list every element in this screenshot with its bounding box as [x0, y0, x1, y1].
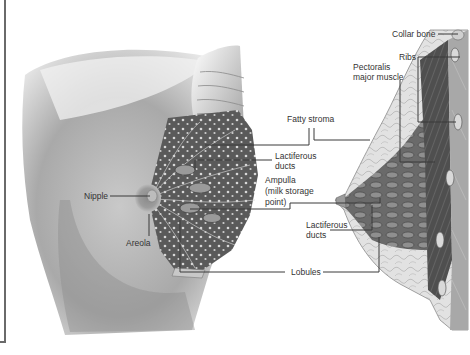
rib-4	[436, 232, 444, 248]
collar-bone	[452, 30, 464, 40]
label-lobules: Lobules	[291, 267, 321, 277]
rib-5	[438, 280, 446, 296]
label-ampulla-line3: point)	[265, 197, 286, 207]
label-ampulla-line2: (milk storage	[265, 186, 314, 196]
label-ampulla-line1: Ampulla	[265, 175, 296, 185]
label-lactiferous-ducts-upper-line2: ducts	[275, 161, 295, 171]
label-areola: Areola	[126, 238, 151, 248]
label-lactiferous-ducts-upper-line1: Lactiferous	[275, 151, 317, 161]
rib-3	[446, 170, 454, 186]
label-ribs: Ribs	[399, 52, 416, 62]
label-pectoralis-line1: Pectoralis	[353, 62, 390, 72]
label-pectoralis-line2: major muscle	[353, 72, 404, 82]
label-nipple: Nipple	[84, 191, 108, 201]
rib-1	[451, 48, 459, 62]
label-collar-bone: Collar bone	[392, 29, 435, 39]
label-lactiferous-ducts-lower-line2: ducts	[306, 230, 326, 240]
label-lactiferous-ducts-lower-line1: Lactiferous	[306, 220, 348, 230]
breast-anatomy-diagram: Collar bone Ribs Pectoralis major muscle…	[0, 0, 470, 355]
label-fatty-stroma: Fatty stroma	[287, 114, 334, 124]
